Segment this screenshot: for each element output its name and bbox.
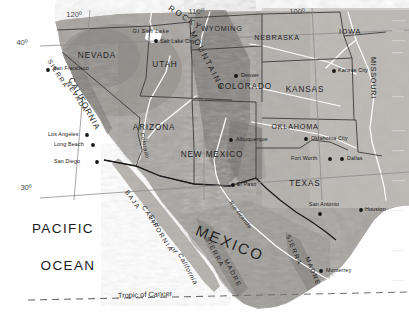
state-label-new-mexico: NEW MEXICO	[181, 150, 244, 159]
state-label-wyoming: WYOMING	[201, 24, 243, 33]
tropic-of-cancer-label: Tropic of Cancer	[118, 289, 173, 300]
ocean-label-pacific: PACIFIC	[32, 221, 94, 236]
city-dot-salt-lake-city	[154, 39, 158, 43]
state-label-arizona: ARIZONA	[133, 123, 176, 132]
graticule-label-lat-40: 40º	[16, 38, 27, 47]
city-dot-los-angeles	[85, 133, 89, 137]
city-label-monterrey: Monterrey	[326, 267, 351, 273]
city-dot-dallas	[340, 157, 344, 161]
state-label-missouri: MISSOURI	[369, 57, 378, 99]
city-dot-houston	[359, 208, 363, 212]
city-label-el-paso: El Paso	[237, 181, 256, 187]
city-label-kansas-city: Kansas City	[338, 67, 368, 73]
state-label-texas: TEXAS	[289, 179, 320, 188]
state-label-oklahoma: OKLAHOMA	[271, 122, 318, 131]
city-dot-san-antonio	[318, 212, 322, 216]
water-label-gt-salt-lake: Gt Salt Lake	[133, 28, 170, 34]
city-label-houston: Houston	[365, 206, 386, 212]
state-label-iowa: IOWA	[339, 27, 361, 36]
graticule-label-lon-110: 110º	[189, 7, 204, 16]
city-label-los-angeles: Los Angeles	[48, 131, 79, 137]
city-label-san-diego: San Diego	[54, 158, 80, 164]
city-dot-albuquerque	[229, 138, 233, 142]
city-label-san-antonio: San Antonio	[309, 201, 339, 207]
city-dot-monterrey	[319, 269, 323, 273]
state-label-nebraska: NEBRASKA	[254, 33, 300, 42]
map-graphic: NEVADAUTAHCALIFORNIAARIZONANEW MEXICOCOL…	[0, 0, 409, 328]
graticule-label-lat-30: 30º	[20, 183, 31, 192]
city-dot-el-paso	[231, 183, 235, 187]
state-label-nevada: NEVADA	[78, 51, 116, 60]
city-label-fort-worth: Fort Worth	[291, 155, 317, 161]
state-label-kansas: KANSAS	[286, 85, 325, 94]
ocean-label-ocean: OCEAN	[40, 258, 95, 273]
city-dot-long-beach	[91, 143, 95, 147]
city-label-albuquerque: Albuquerque	[236, 136, 268, 142]
city-dot-denver	[234, 74, 238, 78]
map-container: NEVADAUTAHCALIFORNIAARIZONANEW MEXICOCOL…	[0, 0, 409, 328]
city-dot-san-diego	[95, 160, 99, 164]
graticule-label-lon-120: 120º	[66, 10, 82, 19]
city-dot-fort-worth	[328, 157, 332, 161]
city-dot-oklahoma-city	[304, 137, 308, 141]
city-label-dallas: Dallas	[347, 155, 363, 161]
city-label-oklahoma-city: Oklahoma City	[311, 135, 348, 141]
graticule-label-lon-100: 100º	[289, 7, 305, 16]
city-dot-san-francisco	[46, 68, 50, 72]
city-label-salt-lake-city: Salt Lake City	[160, 38, 195, 44]
state-label-utah: UTAH	[152, 60, 177, 69]
city-label-long-beach: Long Beach	[54, 141, 84, 147]
city-dot-kansas-city	[332, 69, 336, 73]
city-label-denver: Denver	[241, 72, 259, 78]
